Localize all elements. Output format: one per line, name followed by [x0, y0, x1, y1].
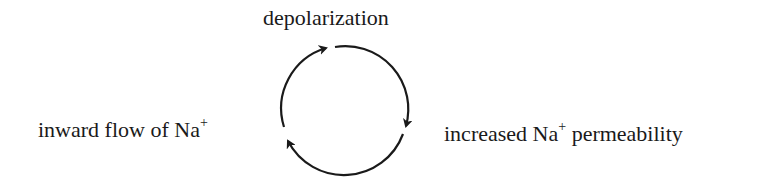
cycle-arrows: [0, 0, 774, 181]
arrow-inward-flow-to-depolarization: [281, 48, 326, 127]
arrow-depolarization-to-permeability: [335, 46, 408, 126]
arrow-permeability-to-inward-flow: [288, 134, 403, 175]
